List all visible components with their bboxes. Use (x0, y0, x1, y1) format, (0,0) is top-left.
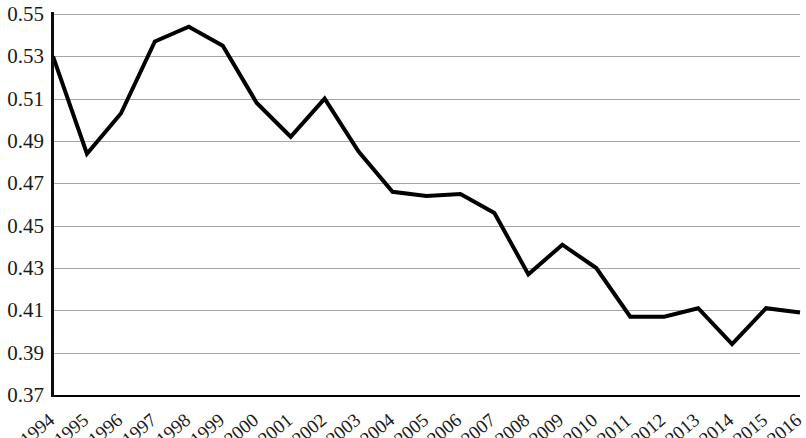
line-chart: 0.550.530.510.490.470.450.430.410.390.37… (0, 0, 806, 438)
plot-area (53, 14, 800, 395)
y-axis-tick-labels: 0.550.530.510.490.470.450.430.410.390.37 (0, 0, 48, 438)
y-axis-tick-label: 0.37 (7, 383, 44, 408)
y-axis-tick-label: 0.39 (7, 340, 44, 365)
y-axis-tick-label: 0.47 (7, 171, 44, 196)
y-axis-tick-label: 0.43 (7, 256, 44, 281)
y-axis-tick-label: 0.53 (7, 44, 44, 69)
y-axis-tick-label: 0.51 (7, 86, 44, 111)
y-axis-tick-label: 0.55 (7, 2, 44, 27)
y-axis-tick-label: 0.41 (7, 298, 44, 323)
series-polyline (53, 27, 800, 345)
y-axis-tick-label: 0.45 (7, 213, 44, 238)
data-series-line (53, 14, 800, 395)
y-axis-line (51, 12, 54, 397)
x-axis-tick-labels: 1994199519961997199819992000200120022003… (53, 397, 800, 438)
y-axis-tick-label: 0.49 (7, 129, 44, 154)
